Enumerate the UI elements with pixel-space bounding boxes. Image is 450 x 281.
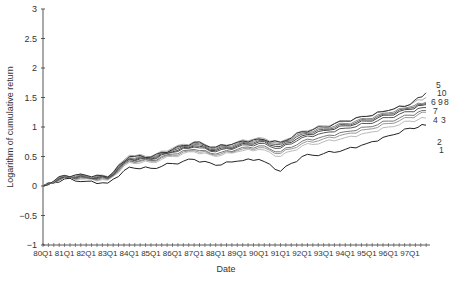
y-tick-label: −0.5 (19, 211, 37, 221)
x-tick-label: 93Q1 (314, 249, 334, 258)
series-line-10 (43, 98, 426, 187)
y-tick-label: 3 (32, 4, 37, 14)
y-axis-label: Logarithm of cumulative return (5, 66, 15, 188)
x-tick-label: 96Q1 (379, 249, 399, 258)
x-tick-label: 89Q1 (228, 249, 248, 258)
series-label-4: 4 (433, 115, 438, 125)
y-tick-label: 2.5 (24, 34, 37, 44)
y-tick-label: 2 (32, 63, 37, 73)
series-label-2: 2 (437, 137, 442, 147)
x-tick-label: 81Q1 (55, 249, 75, 258)
x-tick-label: 94Q1 (335, 249, 355, 258)
x-tick-label: 97Q1 (400, 249, 420, 258)
series-lines (43, 93, 426, 186)
series-line-5 (43, 93, 426, 186)
y-tick-label: 0 (32, 181, 37, 191)
series-label-8: 8 (444, 97, 449, 107)
line-chart: −1−0.500.511.522.53 80Q181Q182Q183Q184Q1… (0, 0, 450, 281)
x-tick-label: 90Q1 (249, 249, 269, 258)
x-tick-label: 95Q1 (357, 249, 377, 258)
x-axis-label: Date (216, 264, 235, 274)
x-tick-label: 84Q1 (120, 249, 140, 258)
x-tick-label: 88Q1 (206, 249, 226, 258)
x-tick-label: 87Q1 (184, 249, 204, 258)
series-line-8 (43, 102, 426, 186)
x-tick-label: 92Q1 (292, 249, 312, 258)
series-end-labels: 12345678910 (431, 80, 449, 155)
x-tick-label: 91Q1 (271, 249, 291, 258)
y-tick-label: 0.5 (24, 152, 37, 162)
x-tick-label: 85Q1 (141, 249, 161, 258)
x-tick-label: 82Q1 (76, 249, 96, 258)
y-axis: −1−0.500.511.522.53 (19, 4, 45, 250)
x-tick-label: 86Q1 (163, 249, 183, 258)
y-tick-label: 1.5 (24, 93, 37, 103)
y-tick-label: 1 (32, 122, 37, 132)
series-label-7: 7 (433, 106, 438, 116)
chart-svg: −1−0.500.511.522.53 80Q181Q182Q183Q184Q1… (0, 0, 450, 281)
series-label-10: 10 (437, 88, 447, 98)
series-label-9: 9 (438, 97, 443, 107)
x-axis: 80Q181Q182Q183Q184Q185Q186Q187Q188Q189Q1… (33, 243, 430, 258)
x-tick-label: 83Q1 (98, 249, 118, 258)
x-tick-label: 80Q1 (33, 249, 53, 258)
series-label-3: 3 (441, 115, 446, 125)
